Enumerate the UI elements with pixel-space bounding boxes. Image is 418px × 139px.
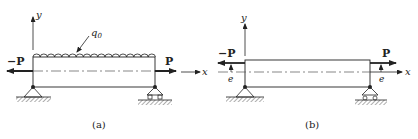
right-force-label-a: P bbox=[165, 55, 173, 68]
left-force-label-a: −P bbox=[7, 55, 25, 68]
right-force-label-b: P bbox=[382, 47, 390, 60]
load-pointer-a bbox=[77, 36, 89, 52]
caption-a: (a) bbox=[92, 119, 106, 130]
left-force-label-b: −P bbox=[218, 47, 236, 60]
load-label-a: q0 bbox=[91, 27, 102, 40]
right-eccentricity-label-b: e bbox=[379, 74, 384, 84]
pin-support-b bbox=[226, 85, 264, 102]
x-axis-label-a: x bbox=[202, 66, 208, 77]
left-eccentricity-label-b: e bbox=[228, 74, 233, 84]
roller-support-a bbox=[138, 85, 172, 105]
beam-diagrams: y q0 −P P x bbox=[0, 0, 418, 139]
roller-support-b bbox=[355, 85, 387, 105]
distributed-load-a bbox=[33, 54, 155, 57]
beam-a bbox=[33, 57, 155, 87]
pin-support-a bbox=[16, 85, 51, 102]
y-axis-label-a: y bbox=[35, 9, 42, 20]
x-axis-label-b: x bbox=[405, 66, 411, 77]
figure-a: y q0 −P P x bbox=[7, 9, 208, 130]
beam-b bbox=[245, 60, 370, 87]
y-axis-label-b: y bbox=[240, 12, 247, 23]
figure-b: y −P e P e x bbox=[218, 12, 411, 130]
caption-b: (b) bbox=[305, 119, 319, 130]
